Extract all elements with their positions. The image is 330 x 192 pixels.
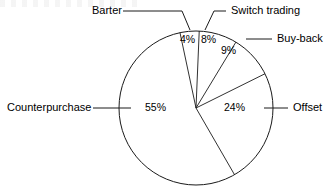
percent-label-buy-back: 9% <box>221 45 236 56</box>
slice-divider-barter-switch <box>196 31 199 108</box>
callout-label-switch-trading: Switch trading <box>231 5 300 16</box>
callout-leader-lines <box>93 11 288 108</box>
slice-divider-offset-counterpurchase <box>196 108 235 175</box>
pie-chart-canvas <box>0 0 330 192</box>
leader-line-switch-trading <box>205 11 226 30</box>
callout-label-barter: Barter <box>92 5 122 16</box>
leader-line-barter <box>123 11 190 30</box>
callout-label-buy-back: Buy-back <box>277 33 323 44</box>
percent-label-counterpurchase: 55% <box>145 102 166 113</box>
pie-chart-figure: Barter Switch trading Buy-back Offset Co… <box>0 0 330 192</box>
callout-label-counterpurchase: Counterpurchase <box>7 102 91 113</box>
callout-label-offset: Offset <box>293 102 322 113</box>
percent-label-offset: 24% <box>224 102 245 113</box>
percent-label-barter: 4% <box>180 34 195 45</box>
percent-label-switch-trading: 8% <box>201 34 216 45</box>
